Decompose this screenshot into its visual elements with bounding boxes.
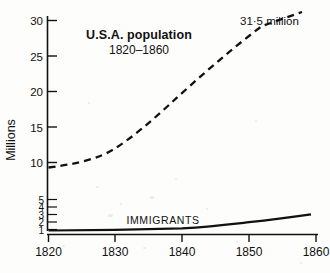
chart-svg: 30 25 20 15 10 5 4 3 2 1 Millions 1820 1… xyxy=(0,0,330,273)
chart-title: U.S.A. population xyxy=(86,28,192,42)
y-tick-label-25: 25 xyxy=(30,51,43,63)
immigrants-series-label: IMMIGRANTS xyxy=(126,214,199,226)
x-tick-label-1830: 1830 xyxy=(102,245,129,259)
figure-canvas: 30 25 20 15 10 5 4 3 2 1 Millions 1820 1… xyxy=(0,0,330,273)
x-tick-label-1860: 1860 xyxy=(303,245,330,259)
y-tick-label-20: 20 xyxy=(30,86,43,98)
y-tick-label-10: 10 xyxy=(30,157,43,169)
chart-subtitle: 1820–1860 xyxy=(109,43,169,57)
y-tick-label-30: 30 xyxy=(30,15,43,27)
x-tick-label-1840: 1840 xyxy=(169,245,196,259)
x-tick-label-1820: 1820 xyxy=(35,245,62,259)
y-tick-label-15: 15 xyxy=(30,122,43,134)
y-tick-label-1: 1 xyxy=(38,225,44,236)
x-tick-label-1850: 1850 xyxy=(236,245,263,259)
y-axis-title: Millions xyxy=(4,119,18,161)
population-end-annotation: 31·5 million xyxy=(240,15,299,27)
